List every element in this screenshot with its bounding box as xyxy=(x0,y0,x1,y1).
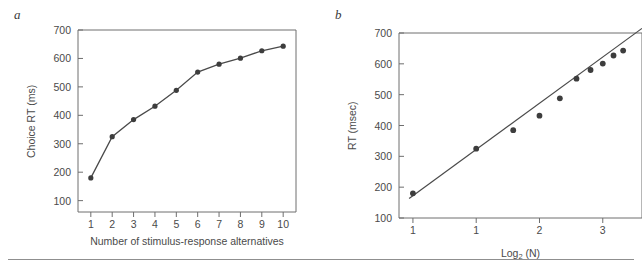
x-tick-label: 5 xyxy=(173,218,179,230)
data-point xyxy=(557,95,563,101)
log-arg-text: (N) xyxy=(523,247,541,259)
plot-frame xyxy=(399,33,642,218)
panel-a-plot: 10020030040050060070012345678910 xyxy=(0,0,321,268)
data-point xyxy=(216,62,221,67)
y-tick-label: 300 xyxy=(374,150,392,162)
x-tick-label: 3 xyxy=(600,224,606,236)
x-tick-label: 1 xyxy=(88,218,94,230)
data-point xyxy=(174,88,179,93)
data-point xyxy=(259,48,264,53)
data-point xyxy=(537,113,543,119)
data-point xyxy=(510,127,516,133)
panel-b: b 1002003004005006007001123 Log2 (N) RT … xyxy=(321,0,642,268)
figure-container: a 10020030040050060070012345678910 Numbe… xyxy=(0,0,642,268)
figure-bottom-rule xyxy=(8,259,634,260)
data-line xyxy=(91,46,283,178)
data-point xyxy=(131,117,136,122)
y-tick-label: 100 xyxy=(53,195,71,207)
data-point xyxy=(611,53,617,59)
y-tick-label: 500 xyxy=(53,81,71,93)
y-tick-label: 100 xyxy=(374,212,392,224)
panel-a: a 10020030040050060070012345678910 Numbe… xyxy=(0,0,321,268)
data-point xyxy=(88,175,93,180)
data-point xyxy=(195,69,200,74)
x-tick-label: 1 xyxy=(410,224,416,236)
y-tick-label: 400 xyxy=(53,109,71,121)
x-tick-label: 6 xyxy=(195,218,201,230)
y-tick-label: 700 xyxy=(374,27,392,39)
y-tick-label: 200 xyxy=(374,181,392,193)
data-point xyxy=(281,44,286,49)
plot-frame xyxy=(78,30,296,212)
y-tick-label: 500 xyxy=(374,89,392,101)
y-tick-label: 600 xyxy=(53,52,71,64)
data-point xyxy=(574,76,580,82)
x-tick-label: 7 xyxy=(216,218,222,230)
data-point xyxy=(588,67,594,73)
panel-a-x-axis-title: Number of stimulus-response alternatives xyxy=(78,236,296,247)
y-tick-label: 200 xyxy=(53,166,71,178)
y-tick-label: 600 xyxy=(374,58,392,70)
panel-b-y-axis-title: RT (msec) xyxy=(347,101,358,150)
regression-line xyxy=(409,28,642,198)
x-tick-label: 1 xyxy=(473,224,479,236)
x-tick-label: 8 xyxy=(238,218,244,230)
data-point xyxy=(473,146,479,152)
y-tick-label: 700 xyxy=(53,24,71,36)
panel-a-y-axis-title: Choice RT (ms) xyxy=(26,84,37,157)
y-tick-label: 300 xyxy=(53,138,71,150)
x-tick-label: 2 xyxy=(109,218,115,230)
x-tick-label: 9 xyxy=(259,218,265,230)
x-tick-label: 2 xyxy=(537,224,543,236)
log-text: Log xyxy=(501,247,519,259)
y-tick-label: 400 xyxy=(374,120,392,132)
x-tick-label: 10 xyxy=(277,218,289,230)
panel-b-plot: 1002003004005006007001123 xyxy=(321,0,642,268)
x-tick-label: 4 xyxy=(152,218,158,230)
data-point xyxy=(600,61,606,67)
x-tick-label: 3 xyxy=(131,218,137,230)
data-point xyxy=(152,104,157,109)
data-point xyxy=(620,48,626,54)
data-point xyxy=(110,134,115,139)
data-point xyxy=(410,190,416,196)
data-point xyxy=(238,56,243,61)
